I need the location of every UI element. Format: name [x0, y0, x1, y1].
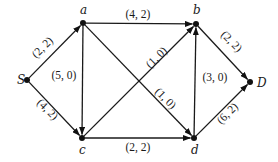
edge-label-c-b: (1, 0) — [143, 44, 170, 71]
node-D — [247, 79, 253, 85]
node-label-D: D — [256, 76, 267, 90]
edge-c-b — [84, 26, 193, 135]
edge-label-a-b: (4, 2) — [126, 8, 151, 21]
node-label-d: d — [191, 143, 199, 157]
node-label-b: b — [193, 3, 201, 17]
node-label-a: a — [80, 3, 87, 17]
edge-a-b — [86, 23, 193, 24]
edge-label-b-D: (2, 2) — [218, 28, 245, 55]
edge-a-c — [82, 26, 83, 135]
node-b — [193, 21, 199, 27]
edge-label-a-c: (5, 0) — [52, 69, 77, 82]
flow-network-diagram: (2, 2)(4, 2)(4, 2)(5, 0)(1, 0)(1, 0)(2, … — [0, 0, 278, 162]
node-a — [80, 20, 86, 26]
edge-label-S-a: (2, 2) — [29, 34, 56, 61]
edge-label-c-d: (2, 2) — [126, 141, 151, 154]
edge-d-b — [194, 27, 196, 135]
node-c — [79, 135, 85, 141]
node-d — [191, 135, 197, 141]
node-label-c: c — [79, 143, 86, 157]
edge-label-d-D: (6, 2) — [214, 100, 241, 127]
edge-labels-layer: (2, 2)(4, 2)(4, 2)(5, 0)(1, 0)(1, 0)(2, … — [29, 8, 245, 154]
edge-label-S-c: (4, 2) — [34, 96, 61, 123]
edge-label-d-b: (3, 0) — [203, 71, 228, 84]
node-label-S: S — [17, 73, 25, 87]
